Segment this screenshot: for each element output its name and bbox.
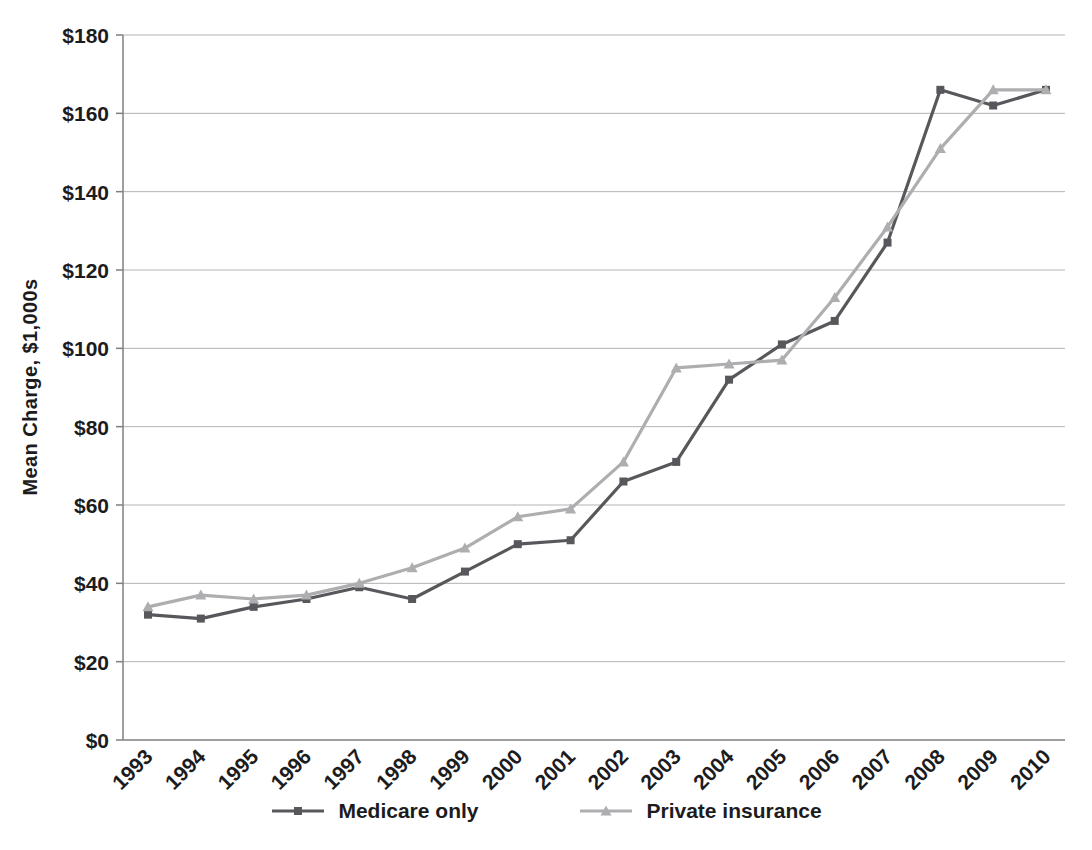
medicare-only-marker-icon	[567, 536, 575, 544]
x-tick-label: 2006	[794, 745, 843, 794]
medicare-only-marker-icon	[197, 615, 205, 623]
legend-label-private-insurance: Private insurance	[646, 799, 821, 823]
medicare-only-series	[144, 86, 1050, 623]
medicare-only-marker-icon	[514, 540, 522, 548]
x-tick-label: 2009	[953, 745, 1002, 794]
legend-label-medicare-only: Medicare only	[338, 799, 478, 823]
private-line-swatch-icon	[578, 802, 634, 820]
legend: Medicare only Private insurance	[0, 799, 1092, 823]
x-tick-label: 1999	[424, 745, 473, 794]
y-tick-label: $100	[62, 337, 109, 360]
medicare-only-marker-icon	[250, 603, 258, 611]
y-axis-title: Mean Charge, $1,000s	[19, 279, 42, 496]
medicare-only-marker-icon	[725, 376, 733, 384]
medicare-only-marker-icon	[144, 611, 152, 619]
y-tick-label: $0	[86, 729, 109, 752]
x-tick-label: 1998	[372, 744, 422, 794]
x-tick-label: 2003	[636, 745, 685, 794]
x-tick-label: 2000	[477, 745, 526, 794]
legend-item-medicare-only: Medicare only	[270, 799, 478, 823]
x-tick-label: 2007	[847, 745, 896, 794]
x-tick-label: 1995	[213, 744, 263, 794]
x-tick-label: 1993	[108, 745, 157, 794]
x-tick-label: 2001	[530, 744, 580, 794]
x-tick-label: 2008	[900, 744, 950, 794]
medicare-line-swatch-icon	[270, 802, 326, 820]
medicare-only-marker-icon	[461, 568, 469, 576]
medicare-only-marker-icon	[936, 86, 944, 94]
medicare-only-marker-icon	[884, 239, 892, 247]
x-tick-label: 2010	[1006, 745, 1055, 794]
medicare-only-marker-icon	[778, 340, 786, 348]
medicare-only-marker-icon	[831, 317, 839, 325]
medicare-only-swatch-marker-icon	[294, 807, 302, 815]
x-tick-label: 1997	[319, 745, 368, 794]
x-tick-label: 1994	[160, 744, 210, 794]
y-tick-label: $20	[74, 651, 109, 674]
y-tick-label: $140	[62, 181, 109, 204]
y-tick-label: $80	[74, 416, 109, 439]
plot-area: $0$20$40$60$80$100$120$140$160$180199319…	[0, 0, 1092, 850]
y-tick-label: $160	[62, 102, 109, 125]
mean-charge-line-chart: $0$20$40$60$80$100$120$140$160$180199319…	[0, 0, 1092, 850]
x-tick-label: 1996	[266, 745, 315, 794]
medicare-only-marker-icon	[408, 595, 416, 603]
x-tick-label: 2004	[689, 744, 739, 794]
medicare-only-line	[148, 90, 1046, 619]
y-tick-label: $180	[62, 24, 109, 47]
y-tick-label: $120	[62, 259, 109, 282]
x-tick-label: 2005	[741, 744, 791, 794]
medicare-only-marker-icon	[672, 458, 680, 466]
legend-item-private-insurance: Private insurance	[578, 799, 821, 823]
medicare-only-marker-icon	[989, 102, 997, 110]
y-tick-label: $40	[74, 572, 109, 595]
medicare-only-marker-icon	[619, 478, 627, 486]
x-tick-label: 2002	[583, 745, 632, 794]
y-tick-label: $60	[74, 494, 109, 517]
